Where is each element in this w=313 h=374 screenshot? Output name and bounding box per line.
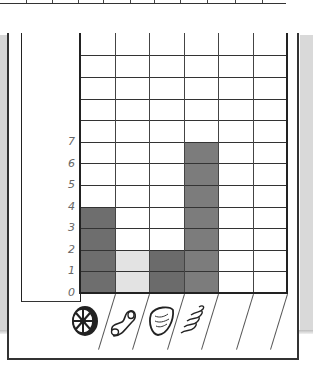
y-tick-label: 7 <box>55 135 75 148</box>
grid-line-vertical <box>218 33 219 293</box>
table-divider <box>103 0 104 3</box>
y-tick-label: 6 <box>55 157 75 170</box>
table-divider <box>26 0 27 3</box>
bar-cell <box>184 250 219 272</box>
grid-line-vertical <box>115 33 116 293</box>
bar-cell <box>115 271 150 293</box>
bar-cell <box>149 271 184 293</box>
grid-frame <box>80 292 288 294</box>
rotini-pasta-icon <box>178 303 208 337</box>
table-divider <box>235 0 236 3</box>
y-tick-label: 0 <box>55 286 75 299</box>
table-divider <box>262 0 263 3</box>
wagon-wheel-pasta-icon <box>70 304 100 338</box>
y-tick-label: 2 <box>55 243 75 256</box>
y-tick-label: 4 <box>55 200 75 213</box>
bar-cell <box>80 271 115 293</box>
grid-line-vertical <box>149 33 150 293</box>
table-divider <box>130 0 131 3</box>
bar-cell <box>80 250 115 272</box>
elbow-macaroni-icon <box>108 306 138 340</box>
bar-cell <box>115 250 150 272</box>
grid-frame <box>79 33 81 294</box>
y-tick-label: 1 <box>55 264 75 277</box>
bar-cell <box>80 207 115 229</box>
y-tick-label: 5 <box>55 178 75 191</box>
grid-line-vertical <box>253 33 254 293</box>
table-divider <box>154 0 155 3</box>
grid-line-vertical <box>184 33 185 293</box>
table-edge-strip <box>0 0 286 4</box>
table-divider <box>180 0 181 3</box>
table-divider <box>78 0 79 3</box>
bar-cell <box>184 271 219 293</box>
bar-cell <box>184 163 219 185</box>
shell-pasta-icon <box>146 304 176 338</box>
page-margin-right <box>300 35 313 331</box>
bar-cell <box>184 207 219 229</box>
table-divider <box>52 0 53 3</box>
page-margin-left <box>0 35 7 331</box>
table-divider <box>207 0 208 3</box>
bar-cell <box>184 228 219 250</box>
bar-cell <box>184 185 219 207</box>
bar-cell <box>149 250 184 272</box>
y-tick-label: 3 <box>55 221 75 234</box>
grid-frame <box>286 33 288 294</box>
bar-cell <box>184 142 219 164</box>
bar-cell <box>80 228 115 250</box>
